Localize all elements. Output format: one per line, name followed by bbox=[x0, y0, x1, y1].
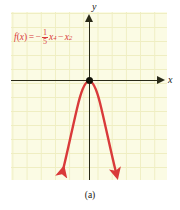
function-equation-label: f(x) = − 1 5 x4 − x2 bbox=[14, 29, 72, 47]
equation-fraction-numerator: 1 bbox=[42, 29, 48, 37]
equation-fraction-denominator: 5 bbox=[42, 38, 48, 46]
figure-panel: x y f(x) = − 1 5 x4 − x2 (a) bbox=[0, 0, 180, 210]
equation-second-minus: − bbox=[58, 33, 63, 43]
function-curve bbox=[62, 81, 116, 173]
figure-caption: (a) bbox=[0, 191, 180, 201]
origin-point-marker bbox=[86, 77, 93, 84]
equation-fraction-one-fifth: 1 5 bbox=[42, 29, 48, 47]
equation-equals-sign: = bbox=[29, 33, 34, 43]
equation-leading-minus: − bbox=[36, 33, 41, 43]
equation-paren-close: ) bbox=[24, 33, 27, 43]
